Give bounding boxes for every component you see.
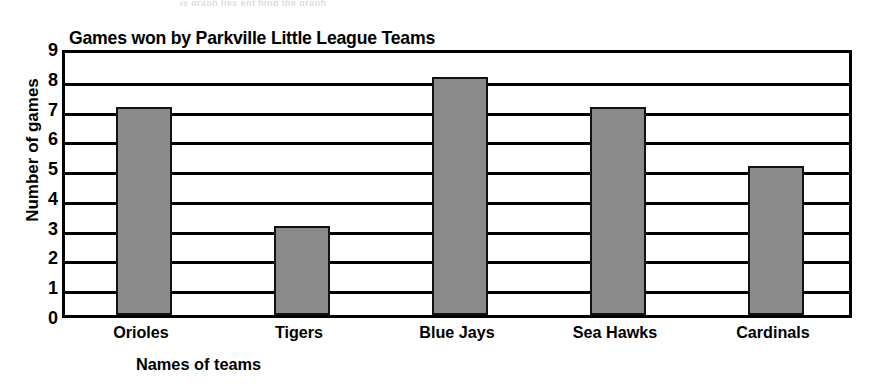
bar-orioles [116,107,172,315]
x-axis-tick-labels: OriolesTigersBlue JaysSea HawksCardinals [62,323,852,349]
y-tick-5: 5 [24,160,58,178]
bar-sea-hawks [590,107,646,315]
y-tick-9: 9 [24,41,58,59]
x-axis-title: Names of teams [136,355,261,375]
y-axis-tick-labels: 0123456789 [18,50,58,318]
y-tick-3: 3 [24,220,58,238]
y-tick-7: 7 [24,101,58,119]
x-tick-cardinals: Cardinals [736,323,810,343]
y-tick-0: 0 [24,309,58,327]
bar-tigers [274,226,330,315]
y-tick-4: 4 [24,190,58,208]
y-tick-6: 6 [24,130,58,148]
x-tick-blue-jays: Blue Jays [419,323,494,343]
y-tick-1: 1 [24,279,58,297]
x-tick-tigers: Tigers [275,323,323,343]
y-tick-8: 8 [24,71,58,89]
y-tick-2: 2 [24,249,58,267]
bar-chart-figure: is graph lies ent hing the graph Games w… [0,0,878,391]
x-tick-orioles: Orioles [113,323,169,343]
plot-area [62,50,852,318]
scan-artifact-text: is graph lies ent hing the graph [180,0,580,6]
chart-title: Games won by Parkville Little League Tea… [69,27,435,49]
bar-cardinals [748,166,804,315]
bar-blue-jays [432,77,488,315]
x-tick-sea-hawks: Sea Hawks [573,323,657,343]
